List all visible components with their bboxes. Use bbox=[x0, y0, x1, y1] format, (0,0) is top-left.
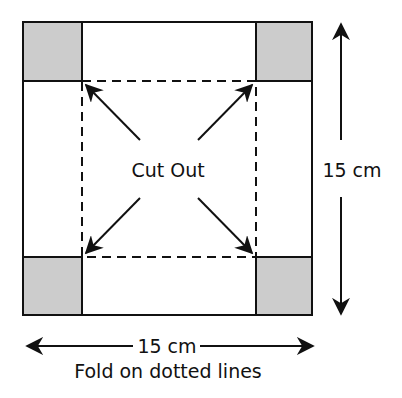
arrow-top-right bbox=[198, 85, 252, 140]
corner-square-bottom-left bbox=[23, 257, 82, 315]
box-net-diagram: Cut Out 15 cm 15 cm Fold on dotted lines bbox=[0, 0, 402, 398]
corner-square-bottom-right bbox=[256, 257, 312, 315]
arrow-bottom-left bbox=[86, 198, 140, 253]
arrow-bottom-right bbox=[198, 198, 252, 253]
side-dimension-label: 15 cm bbox=[322, 159, 381, 181]
corner-square-top-right bbox=[256, 22, 312, 81]
corner-square-top-left bbox=[23, 22, 82, 81]
cut-out-label: Cut Out bbox=[131, 159, 204, 181]
fold-caption: Fold on dotted lines bbox=[74, 360, 262, 382]
arrow-top-left bbox=[86, 85, 140, 140]
bottom-dimension-label: 15 cm bbox=[137, 335, 196, 357]
